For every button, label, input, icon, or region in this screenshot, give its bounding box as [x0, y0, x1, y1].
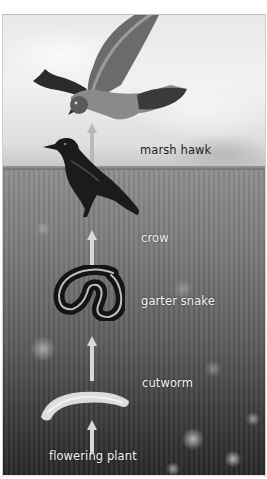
- frame-bottom-edge: [3, 475, 265, 477]
- food-chain-illustration: marsh hawk crow garter snake cutworm flo…: [2, 14, 266, 477]
- garter-snake-icon: [53, 265, 125, 321]
- label-garter-snake: garter snake: [141, 294, 215, 308]
- label-cutworm: cutworm: [142, 376, 193, 390]
- label-flowering-plant: flowering plant: [49, 449, 137, 463]
- label-marsh-hawk: marsh hawk: [140, 143, 211, 157]
- marsh-hawk-icon: [31, 14, 193, 131]
- arrow-cutworm-to-snake: [87, 336, 97, 381]
- cutworm-icon: [37, 387, 133, 423]
- label-crow: crow: [141, 231, 169, 245]
- arrow-snake-to-crow: [87, 230, 97, 268]
- crow-icon: [41, 135, 146, 227]
